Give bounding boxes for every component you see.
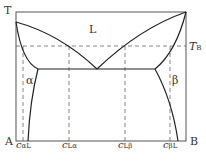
c-l-beta-label: cLβ	[118, 140, 132, 150]
c-l-alpha-label: cLα	[62, 140, 77, 150]
liquidus-right	[97, 12, 186, 69]
component-a-label: A	[5, 136, 13, 147]
c-alpha-l-label: cαL	[16, 140, 31, 150]
region-beta-label: β	[172, 75, 178, 86]
axis-label-t: T	[4, 5, 11, 16]
c-beta-l-label: cβL	[163, 140, 177, 150]
region-alpha-label: α	[26, 75, 33, 86]
tb-label: TB	[189, 41, 202, 52]
liquidus-left	[16, 22, 97, 69]
solidus-right	[155, 12, 186, 69]
region-liquid-label: L	[89, 24, 96, 35]
component-b-label: B	[190, 136, 198, 147]
solidus-left	[16, 22, 38, 69]
